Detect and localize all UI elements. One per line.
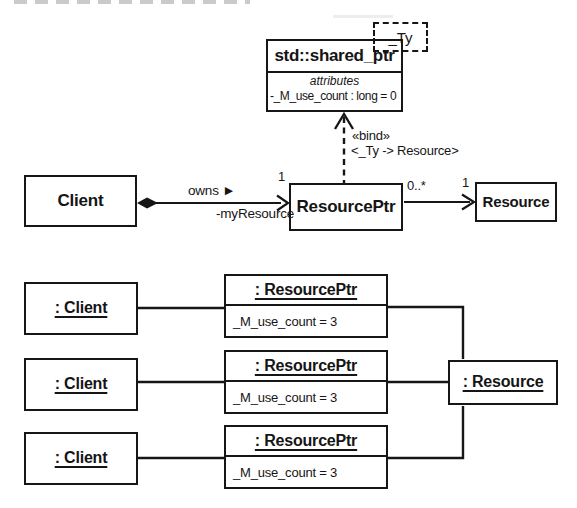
object-resource-ptr-3: : ResourcePtr _M_use_count = 3 <box>224 425 388 489</box>
object-resource-ptr-1-name: : ResourcePtr <box>226 276 386 306</box>
object-resource-ptr-1: : ResourcePtr _M_use_count = 3 <box>224 274 388 338</box>
class-client-name: Client <box>57 191 103 210</box>
class-resource: Resource <box>475 182 557 222</box>
owns-label: owns ► <box>188 184 235 198</box>
class-resource-name: Resource <box>483 193 550 210</box>
bind-stereotype-label: «bind» <box>352 129 390 143</box>
points-to-multiplicity-0-star: 0..* <box>407 179 426 193</box>
class-resource-ptr-name: ResourcePtr <box>297 197 396 216</box>
attribute-m-use-count: -_M_use_count : long = 0 <box>268 89 401 104</box>
object-resource: : Resource <box>448 360 558 405</box>
my-resource-role-label: -myResource <box>216 207 294 221</box>
class-resource-ptr: ResourcePtr <box>289 183 403 231</box>
object-resource-ptr-3-name: : ResourcePtr <box>226 427 386 457</box>
template-parameter-label: _Ty <box>388 29 412 46</box>
bind-binding-label: <_Ty -> Resource> <box>351 144 459 158</box>
object-resource-ptr-1-slot: _M_use_count = 3 <box>226 306 386 329</box>
object-client-2: : Client <box>24 358 138 411</box>
composition-diamond <box>137 198 158 209</box>
object-client-1: : Client <box>24 282 138 335</box>
class-shared-ptr-attributes-compartment: attributes -_M_use_count : long = 0 <box>268 71 401 104</box>
class-client: Client <box>24 175 137 227</box>
object-client-2-name: : Client <box>55 375 108 392</box>
object-client-3: : Client <box>24 432 138 485</box>
object-client-1-name: : Client <box>55 299 108 316</box>
object-resource-ptr-2-name: : ResourcePtr <box>226 352 386 382</box>
uml-diagram-page: std::shared_ptr attributes -_M_use_count… <box>0 0 577 508</box>
object-resource-ptr-3-slot: _M_use_count = 3 <box>226 457 386 480</box>
template-parameter-box: _Ty <box>373 22 428 52</box>
object-resource-ptr-2: : ResourcePtr _M_use_count = 3 <box>224 350 388 414</box>
owns-multiplicity-1: 1 <box>272 170 285 184</box>
link-resourceptr3-resource <box>388 406 463 458</box>
object-resource-ptr-2-slot: _M_use_count = 3 <box>226 382 386 405</box>
link-resourceptr1-resource <box>388 307 463 359</box>
points-to-multiplicity-1: 1 <box>462 176 469 190</box>
attributes-compartment-label: attributes <box>268 74 401 89</box>
object-client-3-name: : Client <box>55 449 108 466</box>
object-resource-name: : Resource <box>463 373 544 390</box>
